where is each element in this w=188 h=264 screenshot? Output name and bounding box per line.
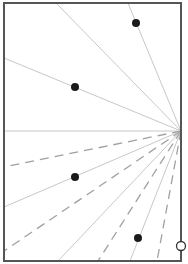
ray-diagram <box>0 0 188 264</box>
ray-solid-0 <box>56 3 181 131</box>
ray-solid-5 <box>4 131 181 207</box>
dot-1[interactable] <box>71 83 79 91</box>
open-circle-marker[interactable] <box>177 242 186 251</box>
ray-solid-7 <box>58 131 181 261</box>
rays-group <box>4 3 181 261</box>
dot-2[interactable] <box>71 173 79 181</box>
dot-0[interactable] <box>132 19 140 27</box>
ray-solid-2 <box>4 58 181 131</box>
board-frame <box>4 3 181 261</box>
dot-3[interactable] <box>134 234 142 242</box>
